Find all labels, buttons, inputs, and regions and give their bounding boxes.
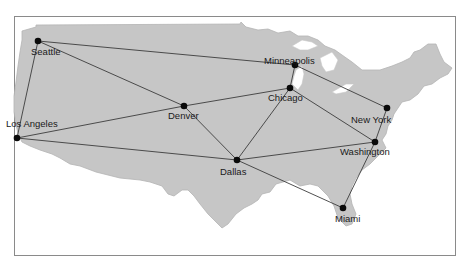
city-label-denver: Denver: [168, 111, 199, 121]
city-node-miami: [340, 205, 347, 212]
city-label-minneapolis: Minneapolis: [264, 56, 315, 66]
us-network-map: [0, 0, 465, 270]
city-node-seattle: [35, 38, 42, 45]
city-node-denver: [181, 103, 188, 110]
us-landmass: [14, 22, 452, 228]
city-label-seattle: Seattle: [31, 47, 61, 57]
city-node-chicago: [287, 85, 294, 92]
city-label-dallas: Dallas: [220, 167, 246, 177]
city-label-miami: Miami: [335, 214, 360, 224]
city-label-chicago: Chicago: [268, 93, 303, 103]
city-label-los_angeles: Los Angeles: [6, 119, 58, 129]
city-node-dallas: [234, 157, 241, 164]
city-label-new_york: New York: [351, 115, 391, 125]
city-node-washington: [372, 139, 379, 146]
city-node-los_angeles: [14, 135, 21, 142]
city-node-new_york: [384, 105, 391, 112]
city-label-washington: Washington: [340, 147, 390, 157]
